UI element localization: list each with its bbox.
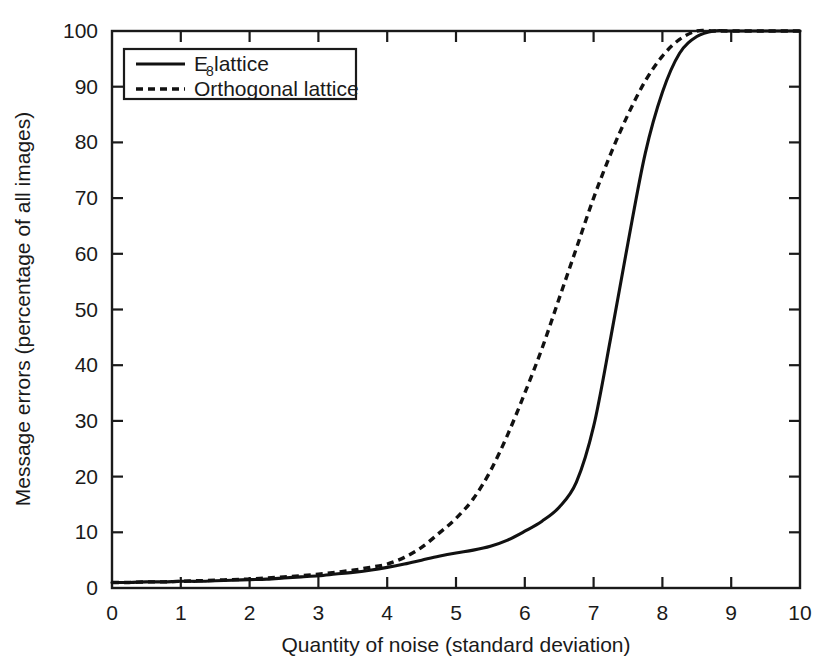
x-tick-label: 7 [588, 601, 600, 624]
chart-figure: 012345678910 0102030405060708090100 Quan… [0, 0, 824, 672]
y-tick-label: 90 [75, 75, 98, 98]
x-tick-label: 6 [519, 601, 531, 624]
y-tick-label: 70 [75, 186, 98, 209]
x-tick-label: 8 [657, 601, 669, 624]
y-axis-title: Message errors (percentage of all images… [11, 112, 34, 507]
legend-label-orthogonal: Orthogonal lattice [194, 77, 359, 100]
y-tick-label: 60 [75, 242, 98, 265]
x-tick-label: 0 [106, 601, 118, 624]
x-tick-label: 4 [381, 601, 393, 624]
y-tick-label: 10 [75, 520, 98, 543]
x-tick-label: 9 [725, 601, 737, 624]
chart-background [0, 0, 824, 672]
y-tick-label: 40 [75, 353, 98, 376]
x-tick-label: 3 [313, 601, 325, 624]
x-tick-label: 2 [244, 601, 256, 624]
x-tick-label: 10 [788, 601, 811, 624]
y-tick-label: 100 [63, 19, 98, 42]
x-axis-title: Quantity of noise (standard deviation) [281, 633, 630, 656]
x-tick-label: 5 [450, 601, 462, 624]
legend-label-e8-rest: lattice [214, 52, 269, 75]
y-tick-label: 0 [86, 576, 98, 599]
y-tick-label: 20 [75, 465, 98, 488]
y-tick-label: 80 [75, 130, 98, 153]
y-tick-label: 30 [75, 409, 98, 432]
chart-canvas: 012345678910 0102030405060708090100 Quan… [0, 0, 824, 672]
x-tick-label: 1 [175, 601, 187, 624]
y-tick-label: 50 [75, 298, 98, 321]
chart-legend: E 8 lattice Orthogonal lattice [124, 49, 359, 100]
